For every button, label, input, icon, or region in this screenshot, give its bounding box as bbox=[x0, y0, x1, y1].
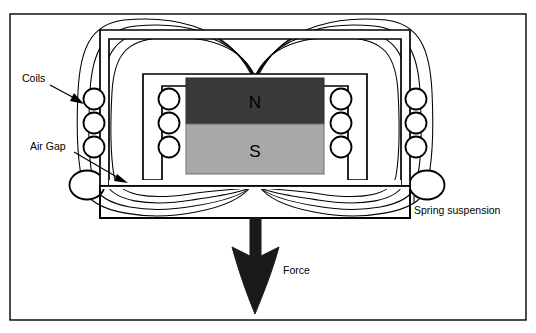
coil-left-outer-1 bbox=[84, 89, 105, 110]
coil-left-outer-3 bbox=[84, 137, 105, 158]
air-gap-region bbox=[109, 180, 401, 186]
shaker-cross-section-diagram: N S bbox=[0, 0, 536, 333]
coil-right-outer-2 bbox=[406, 113, 427, 134]
air-gap-label: Air Gap bbox=[30, 140, 66, 152]
north-pole-label: N bbox=[249, 93, 261, 112]
coil-left-inner-2 bbox=[159, 113, 180, 134]
coil-right-outer-1 bbox=[406, 89, 427, 110]
permanent-magnet: N S bbox=[186, 78, 324, 174]
spring-suspension-label: Spring suspension bbox=[414, 204, 501, 216]
coil-right-inner-2 bbox=[331, 113, 352, 134]
coil-left-outer-2 bbox=[84, 113, 105, 134]
coil-left-inner-3 bbox=[159, 137, 180, 158]
south-pole-label: S bbox=[249, 142, 260, 161]
force-label: Force bbox=[283, 264, 310, 276]
coil-right-inner-1 bbox=[331, 89, 352, 110]
diagram-root: N S bbox=[0, 0, 536, 333]
coils-label: Coils bbox=[22, 72, 45, 84]
right-spring-loop bbox=[410, 171, 445, 200]
coil-right-inner-3 bbox=[331, 137, 352, 158]
coil-left-inner-1 bbox=[159, 89, 180, 110]
coil-right-outer-3 bbox=[406, 137, 427, 158]
